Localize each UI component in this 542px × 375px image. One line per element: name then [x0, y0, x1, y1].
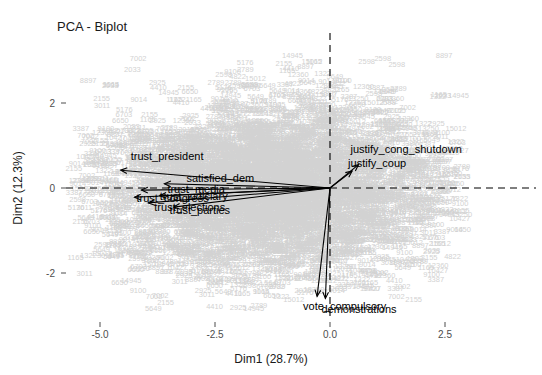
individual-point-label: 5649 — [134, 229, 151, 238]
individual-point-label: 3011 — [351, 108, 367, 117]
individual-point-label: 9014 — [253, 287, 270, 296]
individual-point-label: 2155 — [65, 164, 82, 173]
individual-point-label: 9100 — [284, 260, 301, 269]
individual-point-label: 15012 — [430, 239, 451, 248]
individual-point-label: 9100 — [443, 166, 460, 175]
individual-point-label: 10427 — [127, 129, 148, 138]
individual-point-label: 2925 — [398, 260, 415, 269]
individual-point-label: 5649 — [269, 86, 286, 95]
individual-point-label: 2155 — [93, 94, 110, 103]
chart-title: PCA - Biplot — [57, 19, 127, 34]
individual-point-label: 2598 — [358, 57, 375, 66]
individual-point-label: 2789 — [294, 177, 311, 186]
individual-point-label: 1322 — [193, 254, 210, 263]
individual-point-label: 5649 — [264, 278, 281, 287]
individual-point-label: 6703 — [259, 121, 276, 130]
individual-point-label: 14945 — [243, 304, 264, 313]
individual-point-label: 3011 — [218, 235, 234, 244]
individual-point-label: 1322 — [430, 92, 447, 101]
individual-point-label: 2155 — [421, 253, 438, 262]
individual-point-label: 2598 — [233, 146, 250, 155]
individual-point-label: 8897 — [436, 51, 453, 60]
individual-point-label: 1165 — [105, 241, 121, 250]
individual-point-label: 7002 — [82, 132, 99, 141]
individual-point-label: 3011 — [76, 203, 92, 212]
y-tick-label: 0 — [49, 183, 55, 194]
individual-point-label: 8897 — [297, 62, 314, 71]
individual-point-label: 6650 — [206, 281, 223, 290]
x-tick-label: -2.5 — [206, 329, 224, 340]
individual-point-label: 7002 — [130, 54, 147, 63]
variable-label: justify_coup — [347, 157, 406, 169]
individual-point-label: 12360 — [296, 163, 317, 172]
individual-point-label: 13250 — [118, 183, 139, 192]
individual-point-label: 15012 — [191, 125, 212, 134]
individual-point-label: 2925 — [407, 192, 424, 201]
individual-point-label: 15012 — [316, 253, 337, 262]
individual-point-label: 1322 — [391, 215, 408, 224]
x-tick-label: -5.0 — [91, 329, 109, 340]
individual-point-label: 4410 — [173, 98, 190, 107]
individual-point-label: 4410 — [109, 198, 126, 207]
individual-point-label: 6703 — [244, 260, 261, 269]
individual-point-label: 6703 — [219, 102, 236, 111]
individual-point-label: 9100 — [84, 221, 101, 230]
individual-point-label: 9100 — [223, 261, 240, 270]
individual-point-label: 7002 — [285, 235, 302, 244]
individual-point-label: 14945 — [247, 215, 268, 224]
variable-label: trust_judiciary — [160, 190, 228, 202]
individual-point-label: 2925 — [295, 286, 312, 295]
individual-point-label: 9100 — [341, 185, 358, 194]
individual-point-label: 7002 — [294, 207, 311, 216]
individual-point-label: 2789 — [208, 78, 225, 87]
individual-point-label: 2033 — [335, 282, 352, 291]
individual-point-label: 6703 — [134, 248, 151, 257]
individual-point-label: 5649 — [327, 146, 344, 155]
individual-point-label: 1322 — [185, 245, 202, 254]
individual-point-label: 7002 — [299, 102, 316, 111]
individual-point-label: 9014 — [103, 80, 120, 89]
individual-point-label: 3387 — [339, 230, 356, 239]
individual-point-label: 6650 — [111, 278, 128, 287]
individual-point-label: 5176 — [251, 97, 268, 106]
individual-point-label: 12360 — [370, 119, 391, 128]
individual-point-label: 7002 — [152, 291, 169, 300]
individual-point-label: 9100 — [423, 270, 440, 279]
individual-point-label: 2598 — [388, 60, 405, 69]
individual-point-label: 9100 — [98, 124, 115, 133]
individual-point-label: 5176 — [441, 194, 458, 203]
individual-point-label: 3011 — [427, 206, 443, 215]
y-axis-title: Dim2 (12.3%) — [11, 151, 25, 224]
individual-point-label: 2155 — [405, 295, 422, 304]
individual-point-label: 6650 — [454, 225, 471, 234]
y-tick-label: 2 — [49, 98, 55, 109]
variable-label: demonstrations — [321, 303, 397, 315]
individual-point-label: 3011 — [172, 277, 188, 286]
individual-point-label: 5176 — [176, 129, 193, 138]
individual-point-label: 10427 — [304, 221, 325, 230]
individual-point-label: 14945 — [357, 270, 378, 279]
individual-point-label: 4822 — [271, 244, 288, 253]
individual-point-label: 10427 — [161, 140, 182, 149]
individual-point-label: 9014 — [69, 179, 86, 188]
individual-point-label: 1165 — [301, 245, 317, 254]
variable-label: satisfied_dem — [186, 172, 254, 184]
individual-point-label: 10427 — [166, 263, 187, 272]
individual-point-label: 8897 — [80, 76, 97, 85]
individual-point-label: 2925 — [242, 154, 259, 163]
x-axis-title: Dim1 (28.7%) — [234, 352, 307, 366]
individual-point-label: 9100 — [142, 256, 159, 265]
individual-point-label: 1322 — [230, 248, 247, 257]
individual-point-label: 6703 — [344, 249, 361, 258]
individual-point-label: 5176 — [116, 105, 133, 114]
individual-point-label: 3387 — [387, 284, 404, 293]
individual-point-label: 5649 — [102, 230, 119, 239]
individual-point-label: 1165 — [140, 115, 156, 124]
individual-point-label: 2925 — [316, 191, 333, 200]
individual-point-label: 5649 — [145, 304, 162, 313]
individual-point-label: 9014 — [130, 95, 147, 104]
individual-point-label: 15012 — [245, 74, 266, 83]
individual-point-label: 8897 — [243, 275, 260, 284]
individual-point-label: 2033 — [209, 118, 226, 127]
individual-point-label: 4410 — [340, 128, 357, 137]
